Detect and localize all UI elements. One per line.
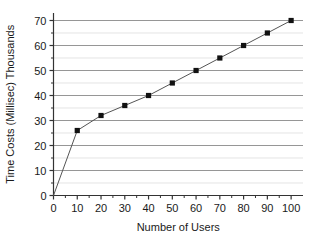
x-axis-tick-labels: 0102030405060708090100 (50, 202, 300, 214)
x-tick-label: 70 (214, 202, 226, 214)
gridlines-minor (54, 33, 304, 183)
x-tick-label: 10 (71, 202, 83, 214)
data-point-marker (98, 113, 103, 118)
x-tick-label: 100 (282, 202, 300, 214)
y-tick-label: 50 (34, 65, 46, 77)
gridlines-major (54, 21, 304, 171)
y-axis-tick-labels: 010203040506070 (34, 15, 46, 202)
x-axis-title: Number of Users (137, 221, 221, 233)
x-tick-label: 50 (166, 202, 178, 214)
data-point-marker (241, 43, 246, 48)
data-point-marker (75, 128, 80, 133)
x-tick-label: 20 (95, 202, 107, 214)
data-point-marker (146, 93, 151, 98)
x-tick-label: 90 (261, 202, 273, 214)
y-tick-label: 20 (34, 140, 46, 152)
data-point-marker (217, 55, 222, 60)
line-chart: 010203040506070 0102030405060708090100 T… (0, 0, 317, 244)
data-point-marker (122, 103, 127, 108)
data-point-marker (193, 68, 198, 73)
y-tick-label: 30 (34, 115, 46, 127)
data-point-marker (170, 80, 175, 85)
x-tick-label: 0 (50, 202, 56, 214)
x-tick-label: 30 (119, 202, 131, 214)
y-tick-label: 40 (34, 90, 46, 102)
data-series-markers (75, 18, 294, 133)
x-tick-label: 80 (237, 202, 249, 214)
y-axis-title: Time Costs (Millisec) Thousands (4, 24, 16, 183)
x-tick-label: 40 (142, 202, 154, 214)
data-point-marker (265, 30, 270, 35)
y-tick-label: 0 (40, 190, 46, 202)
y-tick-label: 60 (34, 40, 46, 52)
y-tick-label: 70 (34, 15, 46, 27)
data-point-marker (289, 18, 294, 23)
y-tick-label: 10 (34, 165, 46, 177)
axis-lines (54, 13, 304, 196)
chart-container: 010203040506070 0102030405060708090100 T… (0, 0, 317, 244)
x-tick-label: 60 (190, 202, 202, 214)
